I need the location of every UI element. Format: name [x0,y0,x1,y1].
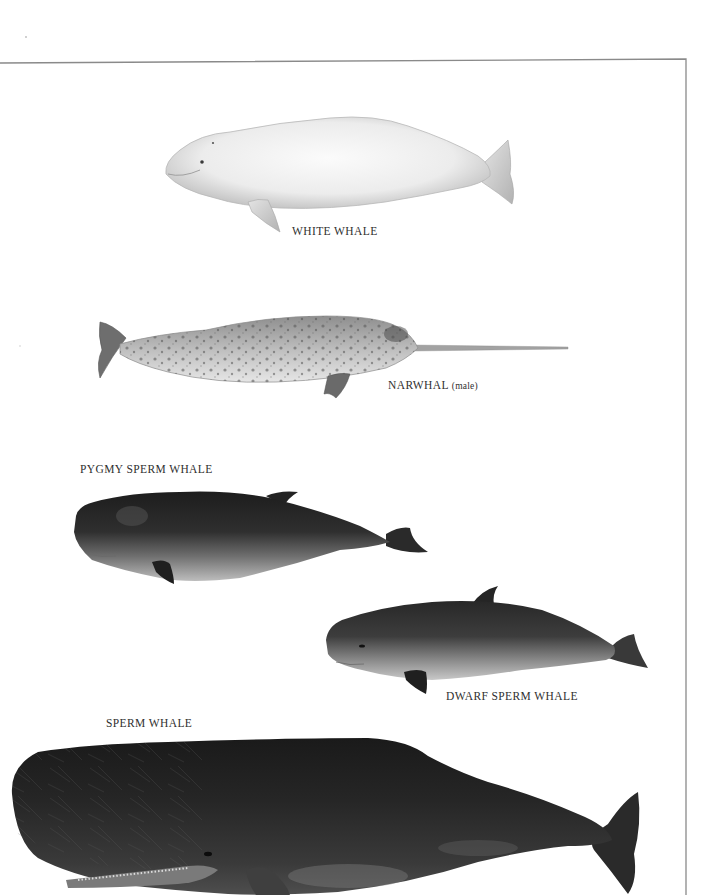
sperm-whale-illustration [8,734,648,895]
narwhal-label-text: NARWHAL [388,379,449,391]
dwarf-sperm-whale-label-text: DWARF SPERM WHALE [446,690,578,702]
narwhal-label-qualifier: (male) [452,381,478,391]
white-whale-label-text: WHITE WHALE [292,225,378,237]
pygmy-sperm-whale-illustration [70,486,430,586]
plate-page: WHITE WHALE NARWHAL (male) [0,0,709,895]
dwarf-sperm-whale-label: DWARF SPERM WHALE [446,691,578,703]
narwhal-illustration [96,312,570,402]
dwarf-sperm-whale-illustration [322,584,650,696]
sperm-whale-label-text: SPERM WHALE [106,717,192,729]
narwhal-label: NARWHAL (male) [388,380,478,392]
white-whale-label: WHITE WHALE [292,226,378,238]
pygmy-sperm-whale-label: PYGMY SPERM WHALE [80,464,213,476]
pygmy-sperm-whale-label-text: PYGMY SPERM WHALE [80,463,213,475]
sperm-whale-label: SPERM WHALE [106,718,192,730]
white-whale-illustration [160,112,520,236]
